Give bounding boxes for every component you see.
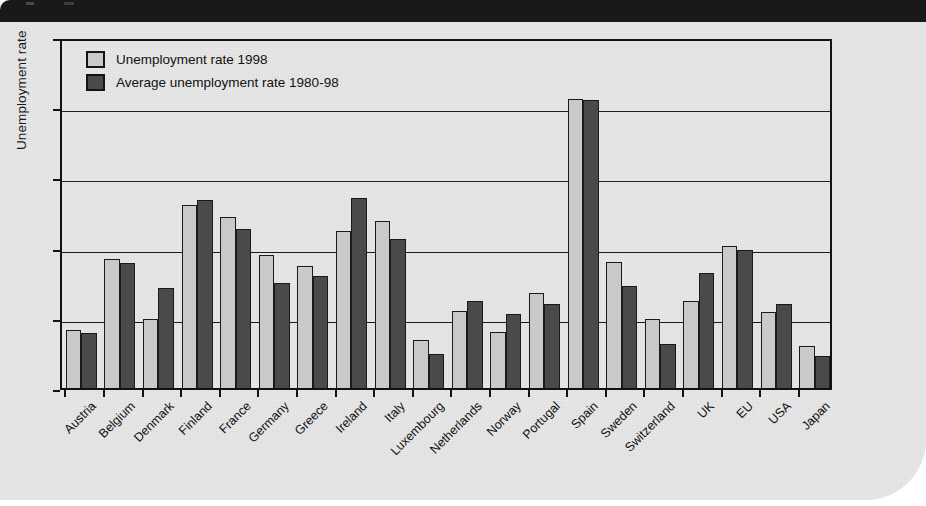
bar: [529, 293, 545, 388]
bar: [120, 263, 136, 388]
x-axis-label-usa: USA: [766, 399, 794, 427]
x-tick-mark: [257, 390, 259, 397]
x-axis-label-greece: Greece: [292, 399, 331, 438]
x-axis-label-austria: Austria: [62, 399, 99, 436]
bar: [336, 231, 352, 388]
bar: [259, 255, 275, 388]
x-axis-label-germany: Germany: [246, 399, 292, 445]
legend: Unemployment rate 1998 Average unemploym…: [86, 51, 339, 97]
x-tick-mark: [412, 390, 414, 397]
x-axis-label-ireland: Ireland: [332, 399, 369, 436]
bar-group: [525, 41, 564, 388]
bar: [81, 333, 97, 388]
x-tick-mark: [721, 390, 723, 397]
x-tick-mark: [605, 390, 607, 397]
legend-item-series1: Unemployment rate 1998: [86, 51, 339, 68]
bar: [413, 340, 429, 388]
bar: [645, 319, 661, 388]
bar: [506, 314, 522, 388]
x-axis-label-italy: Italy: [382, 399, 408, 425]
x-axis-label-japan: Japan: [799, 399, 833, 433]
bar-group: [602, 41, 641, 388]
plot-area: Unemployment rate 1998 Average unemploym…: [60, 39, 832, 390]
bar: [452, 311, 468, 388]
y-tick-mark-5: [53, 320, 60, 322]
x-tick-mark: [489, 390, 491, 397]
bar: [490, 332, 506, 388]
bar: [815, 356, 831, 388]
x-axis-label-france: France: [216, 399, 253, 436]
x-tick-mark: [528, 390, 530, 397]
bar: [799, 346, 815, 388]
bar: [429, 354, 445, 388]
bar: [660, 344, 676, 388]
bar: [390, 239, 406, 388]
legend-label-series1: Unemployment rate 1998: [116, 52, 268, 67]
legend-item-series2: Average unemployment rate 1980-98: [86, 74, 339, 91]
x-tick-mark: [180, 390, 182, 397]
bar: [583, 100, 599, 388]
bar: [297, 266, 313, 388]
bar-group: [371, 41, 410, 388]
x-tick-mark: [219, 390, 221, 397]
bar: [143, 319, 159, 388]
x-axis-label-portugal: Portugal: [520, 399, 563, 442]
bar: [158, 288, 174, 388]
y-tick-mark-15: [53, 179, 60, 181]
bar-group: [795, 41, 834, 388]
x-tick-mark: [64, 390, 66, 397]
x-tick-mark: [142, 390, 144, 397]
x-tick-mark: [335, 390, 337, 397]
legend-swatch-series1: [86, 51, 105, 68]
bar: [220, 217, 236, 388]
bar: [313, 276, 329, 388]
bar-group: [641, 41, 680, 388]
scanned-page: Unemployment rate 0510152025 Unemploymen…: [0, 0, 926, 506]
y-axis-label: Unemployment rate: [14, 0, 29, 150]
x-tick-mark: [373, 390, 375, 397]
x-tick-mark: [643, 390, 645, 397]
x-tick-mark: [103, 390, 105, 397]
x-axis-label-uk: UK: [695, 399, 717, 421]
x-axis-label-eu: EU: [733, 399, 755, 421]
bar: [568, 99, 584, 388]
bar: [737, 250, 753, 388]
bar: [351, 198, 367, 388]
bar-group: [409, 41, 448, 388]
bar-chart: Unemployment rate 0510152025 Unemploymen…: [0, 0, 926, 506]
y-tick-mark-0: [53, 390, 60, 392]
bar-group: [487, 41, 526, 388]
bar: [66, 330, 82, 388]
bar: [544, 304, 560, 388]
bar: [622, 286, 638, 388]
bar-group: [448, 41, 487, 388]
x-tick-mark: [759, 390, 761, 397]
legend-swatch-series2: [86, 74, 105, 91]
bar: [606, 262, 622, 388]
bar: [683, 301, 699, 388]
y-tick-mark-10: [53, 250, 60, 252]
x-axis-label-norway: Norway: [484, 399, 524, 439]
y-tick-mark-25: [53, 39, 60, 41]
bar: [197, 200, 213, 388]
bar: [274, 283, 290, 388]
bar: [776, 304, 792, 388]
x-tick-mark: [566, 390, 568, 397]
bar: [375, 221, 391, 388]
x-tick-mark: [450, 390, 452, 397]
x-axis-label-spain: Spain: [568, 399, 601, 432]
bar: [236, 229, 252, 388]
bar: [182, 205, 198, 388]
bar: [699, 273, 715, 388]
legend-label-series2: Average unemployment rate 1980-98: [116, 75, 339, 90]
bar: [104, 259, 120, 388]
bar-group: [680, 41, 719, 388]
bar-group: [757, 41, 796, 388]
bar: [467, 301, 483, 388]
x-tick-mark: [296, 390, 298, 397]
bar: [761, 312, 777, 388]
bar-group: [718, 41, 757, 388]
x-tick-mark: [798, 390, 800, 397]
y-tick-mark-20: [53, 109, 60, 111]
bar: [722, 246, 738, 388]
